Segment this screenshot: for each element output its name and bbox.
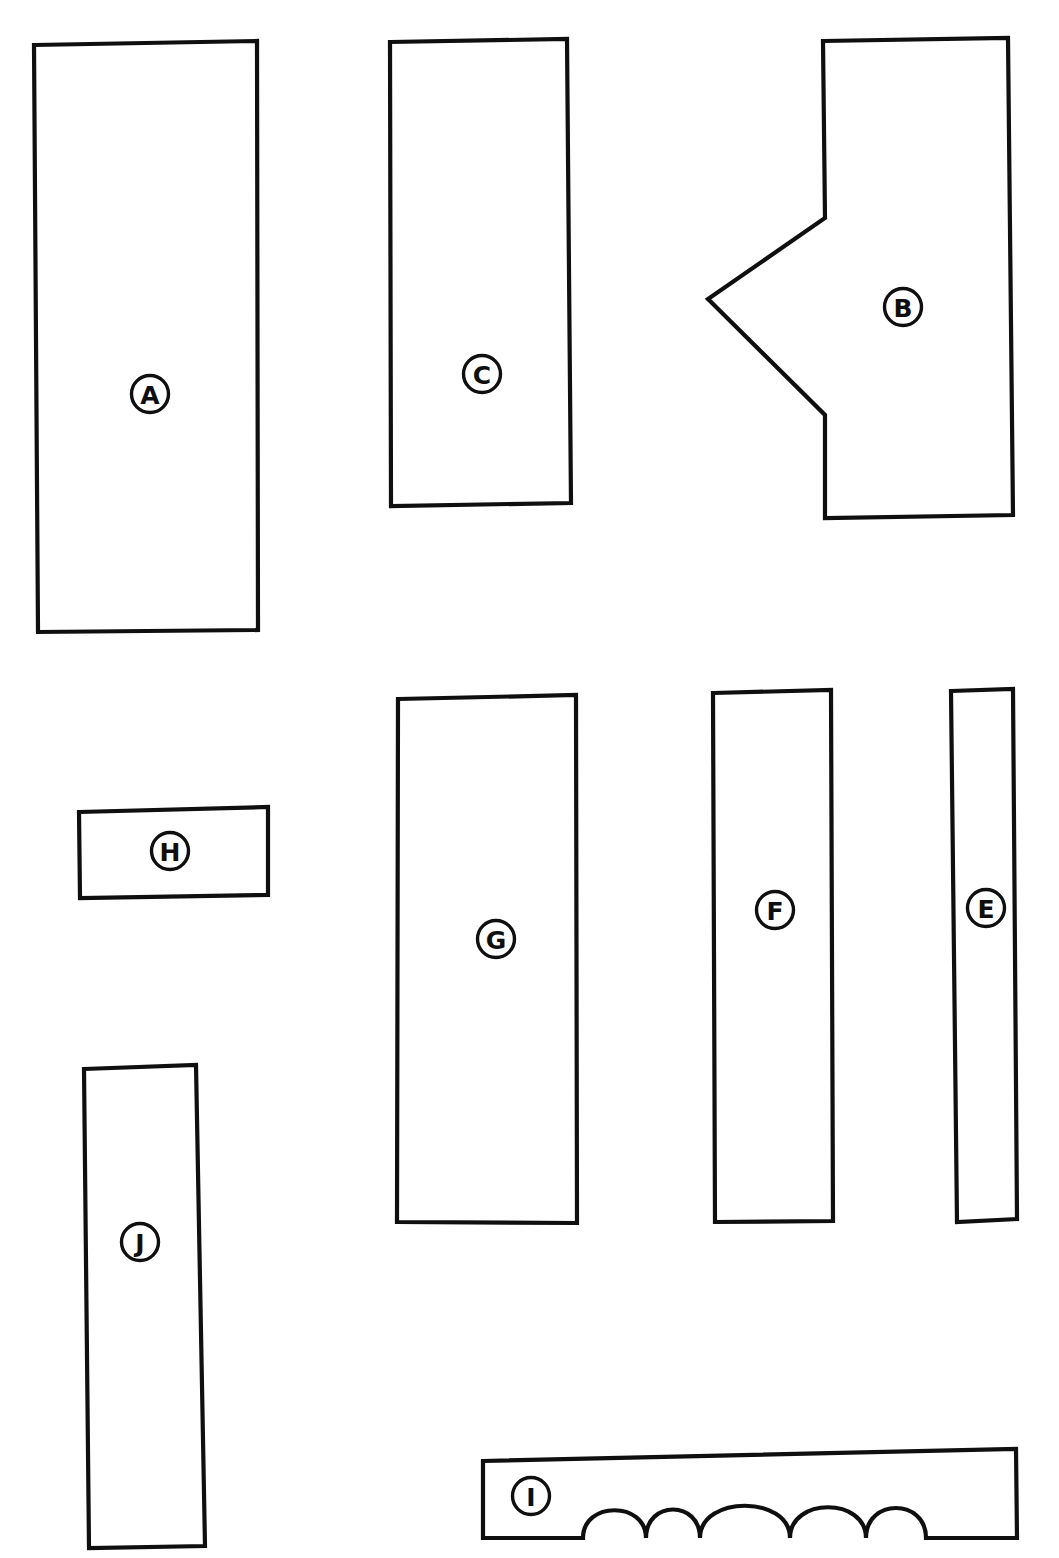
part-j-tag: J (122, 1224, 159, 1261)
part-e[interactable]: E (951, 689, 1017, 1222)
part-e-tag: E (968, 890, 1005, 927)
part-g[interactable]: G (397, 695, 577, 1223)
part-c-tag-label: C (473, 361, 491, 390)
part-i-tag-label: I (526, 1483, 535, 1512)
part-a-tag: A (132, 376, 169, 413)
part-b-outline (708, 38, 1013, 518)
part-h-tag-label: H (160, 838, 181, 867)
part-c-outline (390, 39, 571, 506)
part-h-tag: H (152, 833, 189, 870)
part-f-outline (713, 690, 833, 1222)
part-g-tag: G (478, 921, 515, 958)
part-a-outline (34, 41, 258, 632)
part-a-tag-label: A (140, 381, 160, 410)
part-b[interactable]: B (708, 38, 1013, 518)
part-j-outline (84, 1065, 205, 1548)
parts-layout-drawing: A C B H (0, 0, 1059, 1558)
part-g-tag-label: G (486, 926, 507, 955)
part-f[interactable]: F (713, 690, 833, 1222)
part-c[interactable]: C (390, 39, 571, 506)
part-i-tag: I (513, 1478, 550, 1515)
part-j-tag-label: J (133, 1229, 144, 1258)
part-f-tag: F (757, 892, 794, 929)
part-j[interactable]: J (84, 1065, 205, 1548)
part-e-outline (951, 689, 1017, 1222)
part-e-tag-label: E (977, 895, 994, 924)
part-i[interactable]: I (483, 1449, 1017, 1538)
part-g-outline (397, 695, 577, 1223)
part-c-tag: C (464, 356, 501, 393)
part-i-outline (483, 1449, 1017, 1538)
part-h[interactable]: H (79, 807, 268, 898)
part-f-tag-label: F (766, 897, 783, 926)
part-b-tag: B (885, 289, 922, 326)
drawing-sheet: A C B H (0, 0, 1059, 1558)
part-b-tag-label: B (893, 294, 912, 323)
part-a[interactable]: A (34, 41, 258, 632)
